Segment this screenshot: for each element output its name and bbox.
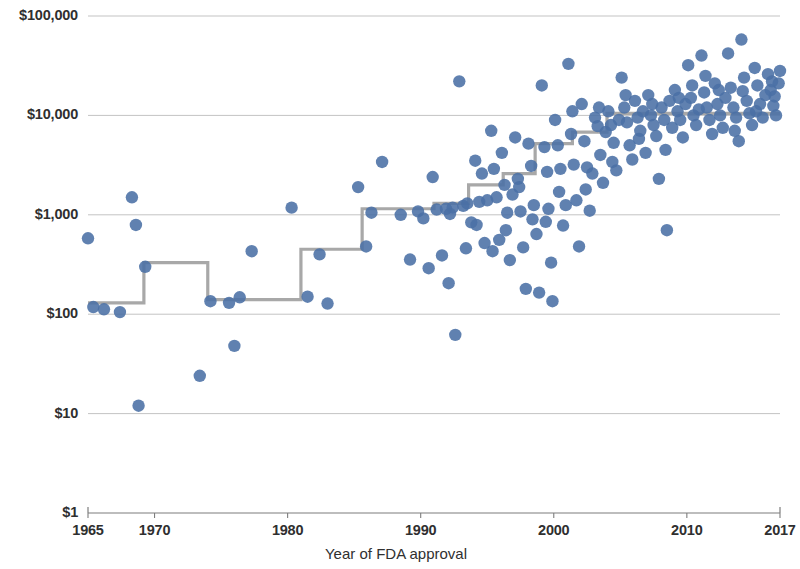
data-point bbox=[449, 329, 461, 341]
data-point bbox=[436, 249, 448, 261]
data-point bbox=[646, 98, 658, 110]
data-point bbox=[578, 135, 590, 147]
data-point bbox=[525, 160, 537, 172]
data-point bbox=[549, 114, 561, 126]
data-point bbox=[538, 141, 550, 153]
data-point bbox=[301, 291, 313, 303]
data-point bbox=[570, 194, 582, 206]
data-point bbox=[404, 253, 416, 265]
data-point bbox=[426, 171, 438, 183]
data-point bbox=[536, 79, 548, 91]
data-point bbox=[565, 128, 577, 140]
data-point bbox=[87, 301, 99, 313]
data-point bbox=[706, 128, 718, 140]
data-point bbox=[650, 130, 662, 142]
data-point bbox=[98, 303, 110, 315]
data-point bbox=[573, 240, 585, 252]
data-point bbox=[365, 206, 377, 218]
data-point bbox=[647, 119, 659, 131]
data-point bbox=[695, 49, 707, 61]
data-point bbox=[717, 122, 729, 134]
data-point bbox=[517, 241, 529, 253]
data-point bbox=[533, 286, 545, 298]
data-point bbox=[580, 183, 592, 195]
scatter-points bbox=[82, 33, 786, 412]
data-point bbox=[594, 149, 606, 161]
data-point bbox=[584, 204, 596, 216]
data-point bbox=[682, 59, 694, 71]
data-point bbox=[417, 212, 429, 224]
data-point bbox=[639, 147, 651, 159]
data-point bbox=[530, 228, 542, 240]
data-point bbox=[228, 340, 240, 352]
data-point bbox=[698, 86, 710, 98]
data-point bbox=[514, 205, 526, 217]
data-point bbox=[568, 158, 580, 170]
data-point bbox=[504, 254, 516, 266]
data-point bbox=[496, 147, 508, 159]
data-point bbox=[528, 199, 540, 211]
data-point bbox=[686, 79, 698, 91]
data-point bbox=[751, 79, 763, 91]
data-point bbox=[659, 144, 671, 156]
data-point bbox=[554, 163, 566, 175]
data-point bbox=[352, 181, 364, 193]
data-point bbox=[509, 131, 521, 143]
data-point bbox=[714, 109, 726, 121]
data-point bbox=[746, 119, 758, 131]
data-point bbox=[223, 297, 235, 309]
x-axis-title: Year of FDA approval bbox=[0, 545, 792, 562]
data-point bbox=[545, 256, 557, 268]
data-point bbox=[722, 47, 734, 59]
data-point bbox=[606, 156, 618, 168]
data-point bbox=[486, 245, 498, 257]
y-axis-tick-label: $1 bbox=[62, 504, 78, 520]
data-point bbox=[488, 163, 500, 175]
data-point bbox=[204, 295, 216, 307]
data-point bbox=[114, 306, 126, 318]
data-point bbox=[422, 262, 434, 274]
data-point bbox=[730, 111, 742, 123]
y-axis-tick-label: $10 bbox=[54, 405, 78, 421]
data-point bbox=[621, 116, 633, 128]
data-point bbox=[653, 173, 665, 185]
data-point bbox=[597, 177, 609, 189]
data-point bbox=[470, 219, 482, 231]
data-point bbox=[661, 224, 673, 236]
data-point bbox=[701, 101, 713, 113]
data-point bbox=[139, 261, 151, 273]
data-point bbox=[703, 114, 715, 126]
data-point bbox=[442, 277, 454, 289]
x-axis-tick-label: 1980 bbox=[248, 522, 328, 538]
data-point bbox=[768, 90, 780, 102]
x-axis-tick-label: 2000 bbox=[514, 522, 594, 538]
data-point bbox=[234, 291, 246, 303]
y-axis-tick-label: $1,000 bbox=[35, 206, 78, 222]
data-point bbox=[737, 85, 749, 97]
y-axis-tick-label: $100,000 bbox=[19, 7, 78, 23]
data-point bbox=[501, 206, 513, 218]
data-point bbox=[546, 295, 558, 307]
data-point bbox=[453, 75, 465, 87]
y-axis-tick-label: $100 bbox=[47, 305, 78, 321]
data-point bbox=[560, 199, 572, 211]
data-point bbox=[566, 105, 578, 117]
data-point bbox=[562, 58, 574, 70]
data-point bbox=[490, 191, 502, 203]
data-point bbox=[690, 119, 702, 131]
data-point bbox=[673, 92, 685, 104]
data-point bbox=[395, 209, 407, 221]
data-point bbox=[607, 137, 619, 149]
data-point bbox=[522, 137, 534, 149]
data-point bbox=[713, 84, 725, 96]
data-point bbox=[541, 166, 553, 178]
data-point bbox=[626, 153, 638, 165]
data-point bbox=[677, 131, 689, 143]
data-point bbox=[586, 167, 598, 179]
data-point bbox=[360, 240, 372, 252]
x-axis-tick-label: 2010 bbox=[647, 522, 727, 538]
data-point bbox=[285, 201, 297, 213]
data-point bbox=[444, 208, 456, 220]
data-point bbox=[126, 191, 138, 203]
